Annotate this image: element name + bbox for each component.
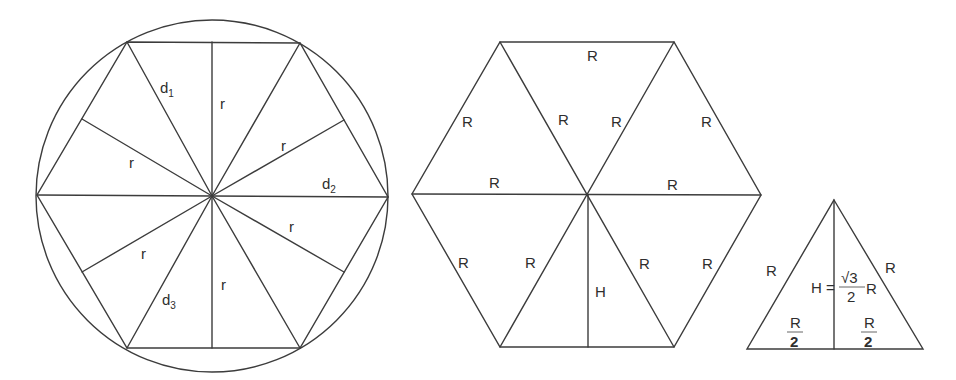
label-r-upper-left: r — [129, 154, 134, 171]
label-R-upper-right-outer: R — [701, 113, 712, 130]
label-R-right: R — [885, 259, 896, 276]
label-R-left: R — [766, 262, 777, 279]
svg-text:R: R — [790, 314, 801, 331]
half-base-left: R 2 — [787, 314, 803, 350]
label-R-mid-left: R — [489, 174, 500, 191]
label-r-lower-right: r — [289, 218, 294, 235]
label-r-top: r — [220, 95, 225, 112]
label-d2: d2 — [322, 175, 336, 195]
label-R-upper-left-inner: R — [558, 111, 569, 128]
label-d3: d3 — [162, 291, 176, 311]
figure-hexagon-triangles: R R R R R R R R R H R R — [412, 42, 761, 347]
label-R-lower-right-outer: R — [702, 255, 713, 272]
svg-text:2: 2 — [790, 333, 798, 350]
label-r-bottom: r — [221, 276, 226, 293]
figure-circle-hexagon: d1 r r r d2 r r r d3 — [36, 20, 388, 372]
label-r-upper-right: r — [281, 137, 286, 154]
label-R-lower-right-inner: R — [639, 255, 650, 272]
label-R-lower-left-inner: R — [525, 254, 536, 271]
svg-text:2: 2 — [864, 333, 872, 350]
svg-text:R: R — [864, 314, 875, 331]
half-base-right: R 2 — [861, 314, 877, 350]
label-R-top: R — [587, 47, 598, 64]
svg-text:H =: H = — [811, 279, 835, 296]
svg-text:2: 2 — [847, 288, 855, 305]
figure-equilateral-triangle: R R H = √3 2 R R 2 R 2 — [747, 200, 923, 350]
label-R-upper-right-inner: R — [611, 113, 622, 130]
hexagon-diagonals — [412, 42, 761, 347]
label-R-lower-left-outer: R — [458, 254, 469, 271]
svg-text:√3: √3 — [841, 269, 858, 286]
label-R-upper-left-outer: R — [462, 113, 473, 130]
geometry-diagram: d1 r r r d2 r r r d3 R R R R R R R R R H… — [0, 0, 956, 380]
height-formula: H = √3 2 R — [811, 269, 877, 305]
label-r-lower-left: r — [141, 245, 146, 262]
label-d1: d1 — [160, 79, 174, 99]
label-R-mid-right: R — [667, 176, 678, 193]
label-H: H — [595, 283, 606, 300]
svg-text:R: R — [866, 280, 877, 297]
